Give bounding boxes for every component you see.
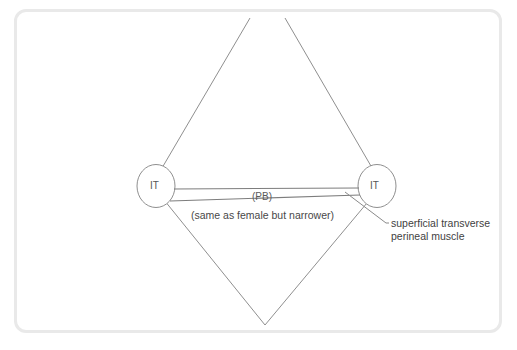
label-it-right: IT	[370, 180, 379, 191]
label-it-left: IT	[150, 180, 159, 191]
label-note-same-as-female: (same as female but narrower)	[191, 209, 334, 221]
muscle-label-line1: superficial transverse	[391, 217, 490, 229]
diamond-edge-bottom-left	[152, 185, 265, 325]
diamond-edge-top-left	[152, 18, 250, 185]
diamond-edge-top-right	[285, 18, 382, 185]
muscle-label-line2: perineal muscle	[391, 230, 465, 242]
transverse-band-upper	[174, 188, 359, 189]
diamond-edge-bottom-right	[265, 185, 382, 325]
figure-canvas: IT IT (PB) (same as female but narrower)…	[0, 0, 517, 350]
diagram-svg	[0, 0, 517, 350]
label-perineal-body: (PB)	[252, 191, 272, 202]
perineum-diamond	[152, 18, 382, 325]
label-superficial-transverse-perineal-muscle: superficial transverseperineal muscle	[391, 217, 506, 243]
